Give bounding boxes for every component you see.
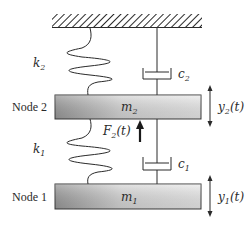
spring-k2-label: k2 (33, 56, 45, 72)
spring-k1-label: k1 (33, 142, 45, 158)
force-f2-label: F2(t) (102, 124, 131, 140)
displacement-y1-label: y1(t) (217, 190, 244, 206)
ground-support (52, 14, 202, 28)
displacement-y2-label: y2(t) (217, 100, 244, 116)
spring-k2 (67, 28, 112, 95)
displacement-arrow-y2 (208, 85, 213, 127)
damper-c1 (143, 119, 171, 184)
diagram-canvas: Node 2 Node 1 m2 m1 k2 k1 c2 c1 F2(t) y2… (0, 0, 249, 229)
displacement-arrow-y1 (208, 175, 213, 217)
node-1-label: Node 1 (12, 190, 47, 204)
damper-c2 (143, 28, 171, 95)
damper-c1-label: c1 (178, 157, 190, 173)
force-arrow-f2 (136, 120, 144, 142)
node-2-label: Node 2 (12, 100, 47, 114)
damper-c2-label: c2 (178, 67, 190, 83)
